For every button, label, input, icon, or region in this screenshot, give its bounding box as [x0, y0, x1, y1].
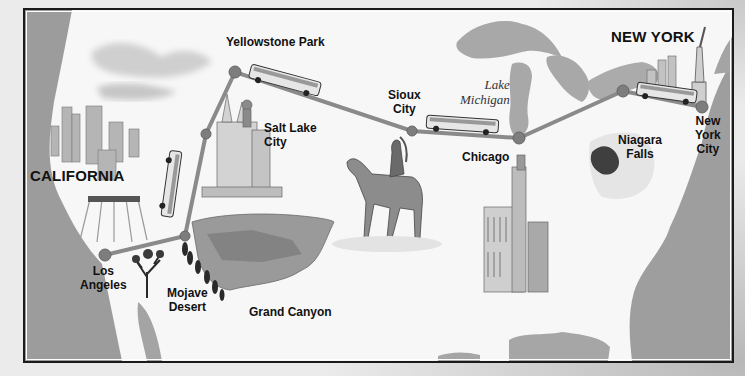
stop-label-line: Mojave — [167, 286, 208, 300]
water-label-line: Michigan — [460, 92, 510, 107]
stop-label-line: York — [695, 128, 721, 142]
gulf-coast-2 — [438, 352, 480, 361]
lake-superior — [456, 21, 562, 59]
stop-label-yellowstone-park: Yellowstone Park — [226, 35, 325, 49]
gulf-of-california — [138, 302, 162, 361]
stop-label-line: Salt Lake — [264, 121, 317, 135]
stop-label-line: Los — [80, 264, 127, 278]
map-frame — [23, 8, 734, 363]
bus — [636, 82, 698, 106]
node-yellowstone-park — [229, 66, 241, 78]
cloud-wash — [97, 83, 177, 100]
stop-label-salt-lake-city: Salt Lake City — [264, 121, 317, 149]
rider-shadow — [332, 236, 442, 252]
node-sioux-city — [407, 126, 417, 136]
region-label-california: CALIFORNIA — [30, 167, 125, 184]
node-chicago — [513, 132, 525, 144]
bus — [248, 64, 322, 99]
map-illustration — [25, 10, 732, 361]
node-salt-lake-city — [201, 129, 211, 139]
stop-label-new-york-city: New York City — [695, 114, 721, 156]
stop-label-line: Sioux — [388, 88, 421, 102]
node-los-angeles — [99, 249, 111, 261]
stop-label-line: New — [695, 114, 721, 128]
freeway-illustration — [80, 199, 147, 242]
new-england-coast — [714, 37, 732, 74]
region-label-new-york: NEW YORK — [611, 28, 695, 45]
gulf-coast-1 — [509, 332, 610, 361]
stop-label-line: City — [264, 135, 317, 149]
stop-label-niagara-falls: Niagara Falls — [618, 133, 662, 161]
cloud-wash — [92, 43, 212, 78]
water-label-line: Lake — [460, 77, 510, 92]
node-niagara-falls — [617, 85, 629, 97]
stop-label-mojave-desert: Mojave Desert — [167, 286, 208, 314]
lake-michigan-shape — [509, 63, 532, 138]
lake-huron — [546, 55, 589, 102]
node-new-york-city — [696, 101, 708, 113]
atlantic-ocean — [630, 62, 732, 361]
stop-label-line: Angeles — [80, 278, 127, 292]
stop-label-line: Desert — [167, 300, 208, 314]
stop-label-line: City — [695, 142, 721, 156]
stop-label-line: Falls — [618, 147, 662, 161]
node-mojave-desert — [180, 231, 190, 241]
stop-label-grand-canyon: Grand Canyon — [249, 305, 332, 319]
stop-label-line: Niagara — [618, 133, 662, 147]
horse-rider — [347, 137, 423, 238]
freeway-vehicles — [88, 196, 140, 202]
stop-label-chicago: Chicago — [462, 150, 509, 164]
stop-label-los-angeles: Los Angeles — [80, 264, 127, 292]
stop-label-line: City — [388, 102, 421, 116]
stop-label-sioux-city: Sioux City — [388, 88, 421, 116]
bus — [158, 150, 182, 217]
water-label-lake-michigan: Lake Michigan — [460, 77, 510, 107]
